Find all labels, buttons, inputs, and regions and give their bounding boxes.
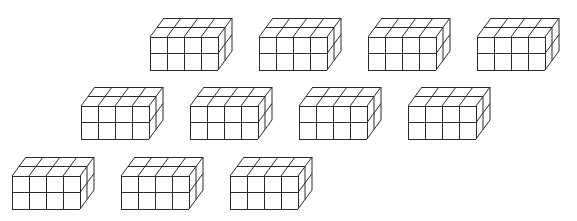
cube-prism-7 (299, 87, 381, 139)
cube-prism-10 (121, 157, 203, 209)
cube-prism-2 (259, 18, 341, 70)
cube-prism-6 (190, 87, 272, 139)
cube-prism-9 (12, 157, 94, 209)
cube-prism-8 (408, 87, 490, 139)
cube-prisms-figure (0, 0, 577, 221)
cube-prism-4 (477, 18, 559, 70)
cube-prism-5 (81, 87, 163, 139)
cube-prism-1 (150, 18, 232, 70)
cube-prism-3 (368, 18, 450, 70)
cube-prism-11 (230, 157, 312, 209)
